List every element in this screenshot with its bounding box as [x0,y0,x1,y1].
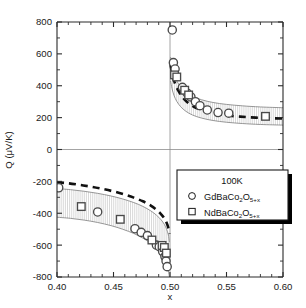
legend-nd-mid: O [242,208,249,218]
data-point-square [148,236,156,244]
data-point-square [173,73,181,81]
y-tick-label: 0 [47,144,52,155]
data-point-square [262,113,270,121]
legend-circle-marker-icon [189,193,196,200]
chart-legend: 100K GdBaCo2O5+x NdBaCo2O5+x [177,170,292,224]
y-tick-label: 600 [36,48,52,59]
data-point-square [116,216,124,224]
seebeck-coefficient-scatter-plot: 0.400.450.500.550.60-800-600-400-2000200… [0,0,306,308]
legend-gd-mid: O [243,192,250,202]
y-axis-title: Q (μV/K) [3,131,14,169]
data-point-circle [168,26,176,34]
data-point-circle [163,263,171,271]
x-tick-label: 0.40 [48,281,67,292]
y-tick-label: -400 [33,208,52,219]
data-point-circle [94,208,102,216]
y-tick-label: -200 [33,176,52,187]
legend-nd-main: NdBaCo [204,208,239,218]
y-tick-label: -800 [33,271,52,282]
y-tick-label: -600 [33,240,52,251]
y-tick-label: 200 [36,112,52,123]
legend-temperature-label: 100K [221,176,243,186]
legend-gd-main: GdBaCo [204,192,239,202]
legend-nd-sub2: 5+x [249,212,260,219]
data-point-circle [214,108,222,116]
data-point-square [185,91,193,99]
x-axis-title: x [168,291,173,302]
data-point-square [77,203,85,211]
y-tick-label: 400 [36,80,52,91]
legend-gd-sub2: 5+x [250,196,261,203]
data-point-circle [225,109,233,117]
x-tick-label: 0.60 [274,281,293,292]
x-tick-label: 0.55 [217,281,236,292]
legend-square-marker-icon [189,208,195,214]
chart-figure: 0.400.450.500.550.60-800-600-400-2000200… [0,0,306,308]
x-tick-label: 0.45 [104,281,123,292]
data-point-square [163,249,171,257]
data-point-circle [203,106,211,114]
y-tick-label: 800 [36,16,52,27]
